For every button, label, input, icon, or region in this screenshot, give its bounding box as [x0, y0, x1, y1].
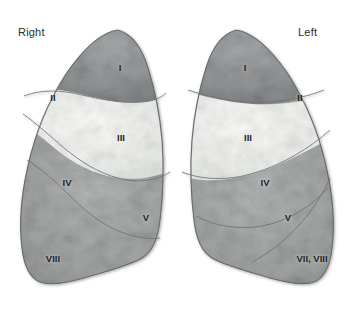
segment-label-right-r2: II: [50, 92, 55, 103]
segment-label-right-r5: V: [143, 212, 149, 223]
segment-label-left-l1: I: [244, 62, 247, 73]
segment-label-left-l78: VII, VIII: [296, 253, 327, 264]
segment-label-left-l5: V: [285, 212, 291, 223]
segment-label-right-r4: IV: [63, 177, 72, 188]
segment-label-left-l3: III: [244, 132, 252, 143]
segment-label-right-r8: VIII: [46, 253, 60, 264]
right-lung-group: [10, 20, 180, 300]
orientation-label-right: Right: [18, 26, 45, 38]
orientation-label-left: Left: [298, 26, 317, 38]
lung-diagram-svg: [0, 0, 354, 311]
segment-label-right-r3: III: [117, 132, 125, 143]
segment-label-right-r1: I: [119, 62, 122, 73]
lung-diagram-figure: Right Left IIIIIIIVVVIIIIIIIIIIVVVII, VI…: [0, 0, 354, 311]
segment-label-left-l4: IV: [261, 177, 270, 188]
segment-label-left-l2: II: [297, 92, 302, 103]
